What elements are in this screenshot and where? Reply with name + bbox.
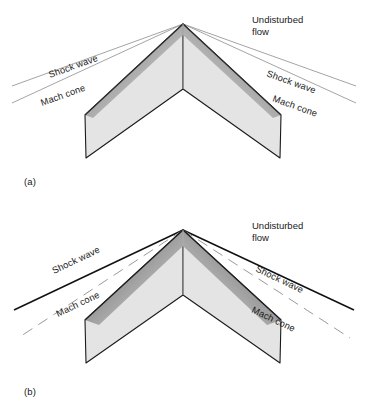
undisturbed-flow-label-b: Undisturbed flow xyxy=(252,220,303,243)
undisturbed-flow-label-a: Undisturbed flow xyxy=(252,14,303,37)
shock-wave-label-left-b: Shock wave xyxy=(51,245,102,276)
mach-cone-label-left-a: Mach cone xyxy=(39,83,86,108)
shock-wave-label-right-b: Shock wave xyxy=(254,264,305,295)
panel-label-a: (a) xyxy=(24,176,36,187)
figure-panel-a: Shock wave Mach cone Shock wave Mach con… xyxy=(0,0,371,206)
diagram-a-svg: Shock wave Mach cone Shock wave Mach con… xyxy=(0,0,371,206)
figure-panel-b: Shock wave Mach cone Shock wave Mach con… xyxy=(0,206,371,412)
delta-wing-a xyxy=(85,24,281,158)
delta-wing-b xyxy=(85,230,281,363)
diagram-b-svg: Shock wave Mach cone Shock wave Mach con… xyxy=(0,206,371,412)
panel-label-b: (b) xyxy=(24,386,36,397)
